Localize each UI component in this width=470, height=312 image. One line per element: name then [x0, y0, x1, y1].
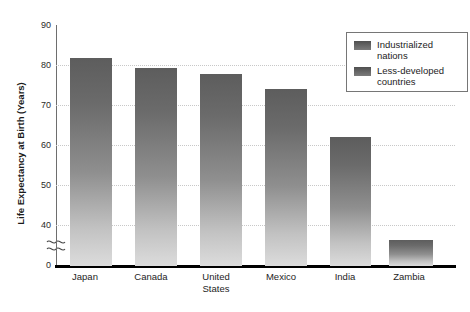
bar-canada[interactable] [135, 68, 177, 266]
chart-figure: Life Expectancy at Birth (Years) 90 80 7… [0, 0, 470, 312]
legend-item-industrialized[interactable]: Industrialized nations [354, 39, 467, 61]
legend: Industrialized nations Less-developed co… [346, 32, 468, 92]
y-axis-tick-labels: 90 80 70 60 50 40 0 [26, 0, 51, 312]
x-tick-mexico: Mexico [250, 271, 312, 283]
x-tick-zambia: Zambia [378, 271, 440, 283]
legend-label-less-developed: Less-developed countries [377, 65, 444, 87]
y-tick-0: 0 [29, 260, 51, 270]
bar-mexico[interactable] [265, 89, 307, 266]
x-tick-canada: Canada [120, 271, 182, 283]
y-tick-50: 50 [29, 180, 51, 190]
bar-united-states[interactable] [200, 74, 242, 266]
legend-item-less-developed[interactable]: Less-developed countries [354, 65, 467, 87]
bar-zambia[interactable] [389, 240, 433, 266]
bar-india[interactable] [330, 137, 371, 266]
y-tick-60: 60 [29, 140, 51, 150]
y-tick-40: 40 [29, 220, 51, 230]
x-tick-india: India [315, 271, 375, 283]
legend-swatch-industrialized [354, 41, 371, 50]
legend-label-industrialized: Industrialized nations [377, 39, 433, 61]
x-tick-japan: Japan [55, 271, 115, 283]
y-tick-90: 90 [29, 20, 51, 30]
y-tick-80: 80 [29, 60, 51, 70]
legend-swatch-less-developed [354, 67, 371, 76]
y-tick-70: 70 [29, 100, 51, 110]
x-tick-united-states: United States [185, 271, 247, 294]
bar-japan[interactable] [70, 58, 112, 266]
y-axis-title: Life Expectancy at Birth (Years) [15, 44, 26, 264]
